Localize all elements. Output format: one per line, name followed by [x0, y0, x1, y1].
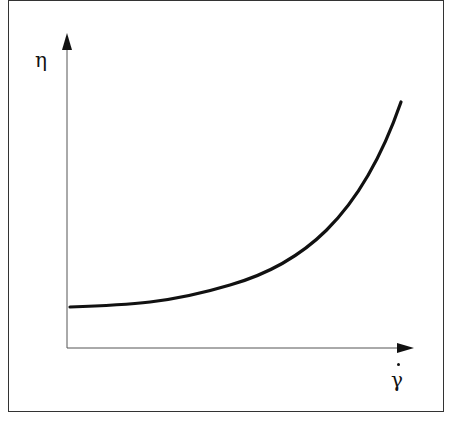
- viscosity-diagram: [0, 0, 455, 425]
- x-axis-label: γ: [391, 368, 403, 392]
- x-axis-label-dot: [397, 363, 400, 366]
- y-axis-arrow-icon: [62, 33, 72, 50]
- x-axis-arrow-icon: [397, 343, 414, 353]
- y-axis-label: η: [35, 48, 47, 72]
- viscosity-curve: [70, 102, 401, 307]
